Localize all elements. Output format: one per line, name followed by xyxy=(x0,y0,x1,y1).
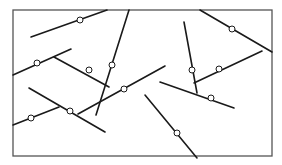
node-circle-icon xyxy=(208,95,214,101)
node-circle-icon xyxy=(34,60,40,66)
node-circle-icon xyxy=(216,66,222,72)
circle-nodes xyxy=(28,17,235,136)
node-circle-icon xyxy=(121,86,127,92)
line-segment xyxy=(13,107,59,125)
line-network-diagram xyxy=(0,0,282,165)
line-segment xyxy=(194,51,262,83)
line-segment xyxy=(31,10,107,37)
line-segment xyxy=(54,57,109,87)
node-circle-icon xyxy=(189,67,195,73)
node-circle-icon xyxy=(109,62,115,68)
line-segment xyxy=(145,95,197,158)
node-circle-icon xyxy=(229,26,235,32)
node-circle-icon xyxy=(28,115,34,121)
node-circle-icon xyxy=(174,130,180,136)
node-circle-icon xyxy=(86,67,92,73)
line-segment xyxy=(160,82,234,108)
line-segment xyxy=(200,10,272,52)
node-circle-icon xyxy=(67,108,73,114)
node-circle-icon xyxy=(77,17,83,23)
